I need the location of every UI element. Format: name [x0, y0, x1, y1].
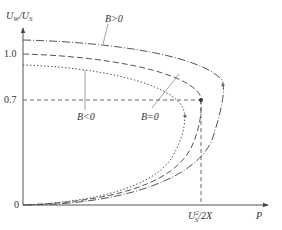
label-b-zero: B=0 [141, 111, 159, 122]
nose-point-b-zero [199, 98, 203, 102]
label-b-positive: B>0 [105, 13, 123, 24]
nose-point-b-negative [183, 114, 186, 117]
y-tick-0-7: 0.7 [4, 94, 17, 105]
x-axis-label: P [255, 210, 262, 221]
y-tick-1-0: 1.0 [4, 48, 17, 59]
curve-b-negative [23, 65, 185, 205]
nose-point-b-positive [221, 83, 224, 86]
leader-b-zero [152, 74, 179, 108]
curve-b-positive [23, 40, 224, 205]
y-axis-label: UW/US [6, 10, 33, 23]
label-b-negative: B<0 [77, 111, 95, 122]
curve-b-zero [23, 54, 201, 205]
y-tick-0: 0 [14, 199, 19, 210]
x-tick-critical-power: U2S/2X [188, 209, 213, 224]
leader-b-positive [103, 24, 108, 44]
pv-nose-curve-chart: UW/US 1.0 0.7 0 P U2S/2X B>0 B=0 B<0 [0, 0, 282, 230]
